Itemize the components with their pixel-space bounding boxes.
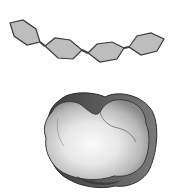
hexagon-unit xyxy=(45,38,82,59)
folded-blob xyxy=(44,93,156,188)
chain-link xyxy=(40,42,45,46)
hexagon-unit xyxy=(129,33,164,55)
hexagon-unit xyxy=(88,42,124,62)
chain-link xyxy=(82,50,88,53)
diagram-figure xyxy=(0,0,182,194)
diagram-canvas xyxy=(0,0,182,194)
hexagon-chain xyxy=(10,20,164,62)
chain-hexagons xyxy=(10,20,164,62)
hexagon-unit xyxy=(10,20,40,45)
